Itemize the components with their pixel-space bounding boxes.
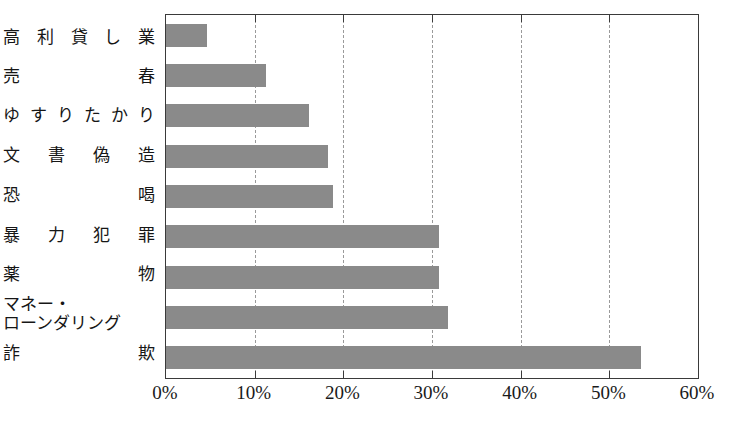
x-axis-labels: 0%10%20%30%40%50%60% (165, 381, 699, 407)
category-label-text: ゆすりたかり (3, 106, 155, 125)
axis-tick (255, 371, 256, 378)
category-label-text: 薬物 (3, 265, 155, 284)
category-label: 売春 (3, 67, 155, 86)
bar (166, 306, 448, 329)
category-label: マネー・ ローンダリング (3, 295, 155, 333)
category-label-text: 高利貸し業 (3, 28, 155, 47)
x-tick-label: 0% (152, 381, 177, 405)
bar (166, 64, 266, 87)
axis-tick (609, 15, 610, 22)
bar (166, 266, 439, 289)
axis-tick (521, 371, 522, 378)
category-label-text: 売春 (3, 67, 155, 86)
category-label-text-line2: ローンダリング (3, 314, 155, 333)
bar (166, 225, 439, 248)
axis-tick (432, 15, 433, 22)
bar (166, 145, 328, 168)
gridline (521, 15, 522, 378)
x-tick-label: 60% (680, 381, 715, 405)
category-label-text-line1: マネー・ (3, 295, 155, 314)
category-label: 文書偽造 (3, 146, 155, 165)
plot-area (165, 14, 699, 379)
category-label: 薬物 (3, 265, 155, 284)
axis-tick (609, 371, 610, 378)
axis-tick (255, 15, 256, 22)
axis-tick (521, 15, 522, 22)
gridline (609, 15, 610, 378)
x-tick-label: 50% (591, 381, 626, 405)
bar (166, 185, 333, 208)
bar (166, 24, 207, 47)
axis-tick (343, 371, 344, 378)
category-label-text: 文書偽造 (3, 146, 155, 165)
x-tick-label: 40% (502, 381, 537, 405)
category-label-text: 暴力犯罪 (3, 226, 155, 245)
category-label: 高利貸し業 (3, 28, 155, 47)
category-label-text: 詐欺 (3, 344, 155, 363)
axis-tick (343, 15, 344, 22)
bar (166, 346, 641, 369)
category-label: 恐喝 (3, 186, 155, 205)
x-tick-label: 30% (414, 381, 449, 405)
axis-tick (432, 371, 433, 378)
x-tick-label: 20% (325, 381, 360, 405)
bar-chart: 高利貸し業 売春 ゆすりたかり 文書偽造 恐喝 暴力犯罪 薬物 マネー・ ローン… (0, 0, 734, 429)
category-label: 暴力犯罪 (3, 226, 155, 245)
category-label: ゆすりたかり (3, 106, 155, 125)
category-axis-labels: 高利貸し業 売春 ゆすりたかり 文書偽造 恐喝 暴力犯罪 薬物 マネー・ ローン… (0, 14, 160, 377)
category-label: 詐欺 (3, 344, 155, 363)
category-label-text: 恐喝 (3, 186, 155, 205)
bar (166, 104, 309, 127)
x-tick-label: 10% (236, 381, 271, 405)
